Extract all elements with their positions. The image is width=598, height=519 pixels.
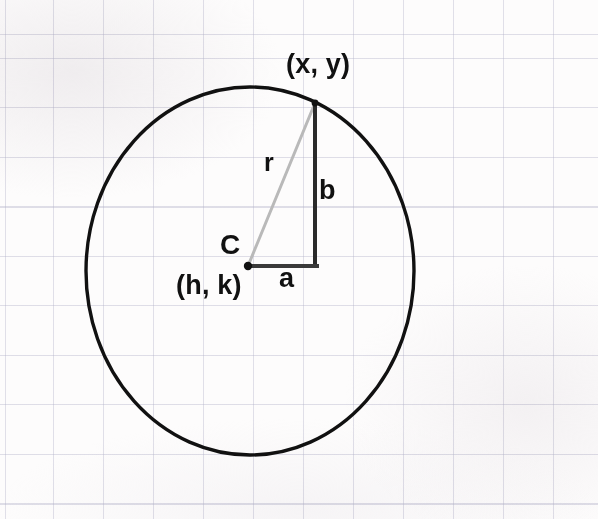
- circle-outline: [86, 87, 414, 455]
- label-horizontal-leg: a: [279, 265, 294, 292]
- label-center-letter: C: [220, 231, 240, 259]
- label-radius: r: [264, 150, 274, 175]
- circumference-point-dot: [312, 100, 319, 107]
- radius-line: [248, 103, 315, 266]
- center-point-dot: [244, 262, 252, 270]
- label-vertical-leg: b: [319, 177, 336, 204]
- label-point-on-circle: (x, y): [286, 51, 350, 78]
- diagram-canvas: (x, y) r b C a (h, k): [0, 0, 598, 519]
- label-center-coords: (h, k): [176, 272, 242, 299]
